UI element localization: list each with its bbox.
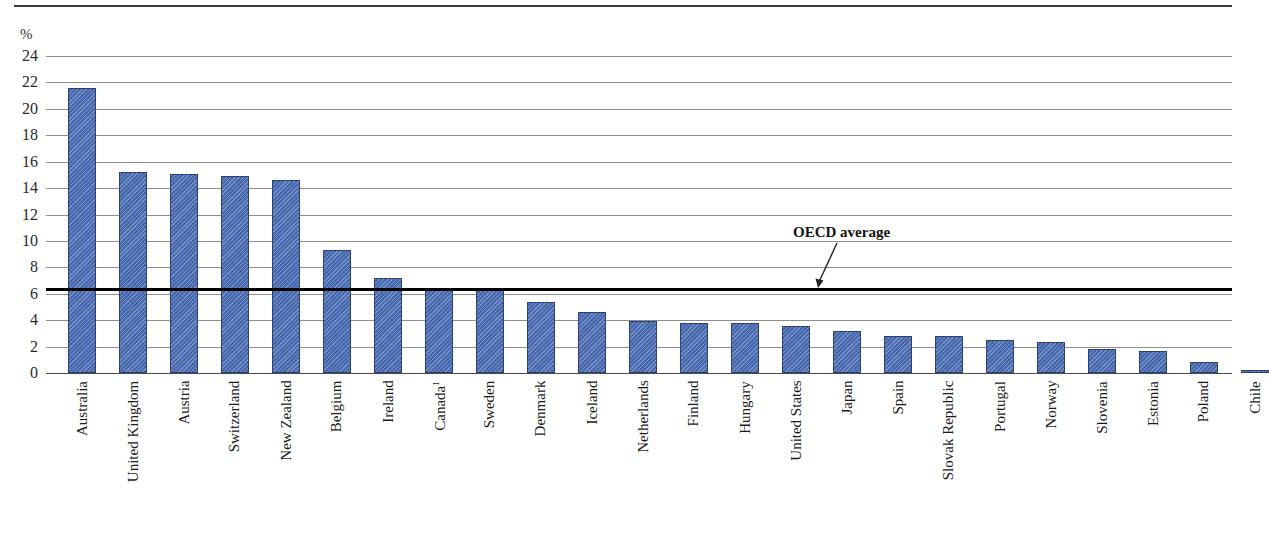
x-axis-category-label: Hungary: [731, 381, 759, 531]
oecd-average-line: [46, 288, 1232, 291]
x-axis-category-label: Denmark: [527, 381, 555, 531]
category-label-text: Poland: [1195, 381, 1212, 423]
x-axis-category-label: Australia: [68, 381, 96, 531]
x-axis-category-label: Norway: [1037, 381, 1065, 531]
x-axis-category-label: Netherlands: [629, 381, 657, 531]
category-label-text: Switzerland: [226, 381, 243, 453]
x-axis-category-label: Portugal: [986, 381, 1014, 531]
x-axis-category-label: Canada1: [425, 381, 453, 531]
x-axis-category-label: Switzerland: [221, 381, 249, 531]
x-axis-category-label: New Zealand: [272, 381, 300, 531]
category-label-text: Hungary: [736, 381, 753, 434]
category-label-text: United States: [788, 380, 805, 460]
x-axis-category-label: Belgium: [323, 381, 351, 531]
category-label-text: Portugal: [991, 381, 1008, 432]
x-axis-category-label: Sweden: [476, 381, 504, 531]
x-axis-category-label: United Kingdom: [119, 381, 147, 531]
x-axis-category-label: Japan: [833, 381, 861, 531]
category-label-text: Chile: [1246, 381, 1263, 414]
category-label-text: Estonia: [1145, 381, 1162, 426]
x-axis-category-label: Poland: [1190, 381, 1218, 531]
x-axis-category-label: Ireland: [374, 381, 402, 531]
x-axis-category-label: Chile: [1241, 381, 1269, 531]
x-axis-category-label: United States: [782, 381, 810, 531]
x-axis-category-label: Finland: [680, 381, 708, 531]
x-axis-category-label: Slovak Republic: [935, 381, 963, 531]
oecd-average-label: OECD average: [790, 224, 893, 241]
category-label-text: Slovak Republic: [940, 381, 957, 481]
category-label-text: Austria: [176, 380, 193, 424]
category-label-text: Australia: [73, 381, 90, 436]
x-axis-category-label: Spain: [884, 381, 912, 531]
category-label-text: United Kingdom: [125, 380, 142, 481]
category-label-text: New Zealand: [278, 380, 295, 460]
category-label-text: Ireland: [380, 380, 397, 422]
x-axis-category-label: Estonia: [1139, 381, 1167, 531]
x-axis-category-label: Austria: [170, 381, 198, 531]
category-label-text: Canada1: [430, 381, 448, 430]
category-label-text: Belgium: [328, 381, 345, 433]
x-axis-category-label: Slovenia: [1088, 381, 1116, 531]
category-label-text: Denmark: [532, 381, 549, 437]
category-label-text: Sweden: [481, 381, 498, 429]
category-label-text: Finland: [685, 381, 702, 427]
category-label-text: Spain: [890, 380, 907, 414]
category-label-text: Slovenia: [1093, 381, 1110, 434]
category-label-text: Netherlands: [635, 380, 652, 452]
x-axis-category-label: Iceland: [578, 381, 606, 531]
category-label-text: Norway: [1043, 380, 1060, 428]
category-label-text: Iceland: [584, 380, 601, 424]
category-label-text: Japan: [839, 380, 856, 414]
